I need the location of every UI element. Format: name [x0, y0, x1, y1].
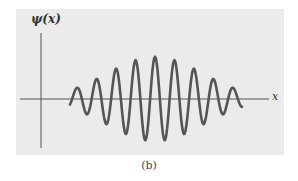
figure-caption: (b)	[0, 159, 298, 172]
y-axis-label: ψ(x)	[31, 12, 61, 26]
wave-packet-figure: ψ(x) x (b)	[0, 0, 298, 181]
plot-area	[0, 0, 298, 181]
x-axis-label: x	[272, 90, 278, 103]
